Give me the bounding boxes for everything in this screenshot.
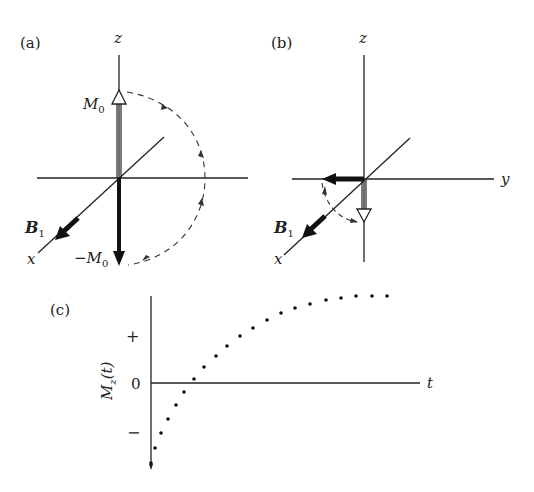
data-point bbox=[339, 296, 343, 300]
panel-c: (c) t + 0 − Mz(t) bbox=[50, 294, 434, 470]
data-point bbox=[192, 377, 196, 381]
data-point bbox=[202, 365, 206, 369]
data-point bbox=[182, 390, 186, 394]
m-filled-arrow bbox=[322, 173, 364, 185]
data-point bbox=[354, 294, 358, 298]
b1-arrow bbox=[302, 216, 325, 238]
data-points bbox=[149, 294, 389, 465]
data-point bbox=[265, 318, 269, 322]
data-point bbox=[174, 403, 178, 407]
data-point bbox=[370, 294, 374, 298]
y-axis-label: Mz(t) bbox=[98, 361, 118, 401]
arc-arrowhead-icon bbox=[198, 150, 204, 158]
data-point bbox=[159, 431, 163, 435]
tick-minus: − bbox=[127, 423, 140, 442]
data-point bbox=[385, 294, 389, 298]
panel-a-z-label: z bbox=[113, 29, 122, 47]
data-point bbox=[251, 326, 255, 330]
b1-label: B1 bbox=[273, 218, 294, 239]
panel-c-label: (c) bbox=[50, 301, 70, 319]
data-point bbox=[279, 311, 283, 315]
rotation-arc bbox=[322, 183, 357, 222]
data-point bbox=[308, 302, 312, 306]
data-point bbox=[149, 461, 153, 465]
panel-a: (a) z M0 −M0 B1 x bbox=[20, 29, 248, 269]
data-point bbox=[293, 306, 297, 310]
data-point bbox=[153, 446, 157, 450]
data-point bbox=[324, 298, 328, 302]
panel-b-label: (b) bbox=[271, 34, 292, 52]
panel-b-x-label: x bbox=[274, 250, 283, 268]
data-point bbox=[225, 344, 229, 348]
figure-canvas: (a) z M0 −M0 B1 x bbox=[0, 0, 534, 492]
tick-plus: + bbox=[126, 327, 139, 346]
neg-m0-label: −M0 bbox=[74, 249, 108, 269]
y-axis-arrow-icon bbox=[149, 464, 153, 470]
panel-b-y-label: y bbox=[500, 170, 510, 188]
data-point bbox=[166, 417, 170, 421]
b1-label: B1 bbox=[24, 218, 45, 239]
arc-arrowhead-icon bbox=[161, 104, 168, 110]
neg-m0-filled-arrow bbox=[113, 178, 125, 266]
panel-b: (b) z y B1 x bbox=[271, 29, 510, 268]
t-axis-label: t bbox=[427, 374, 434, 392]
panel-a-x-label: x bbox=[27, 250, 36, 268]
m0-label: M0 bbox=[82, 95, 105, 115]
data-point bbox=[214, 354, 218, 358]
data-point bbox=[238, 334, 242, 338]
b1-arrow bbox=[55, 218, 78, 240]
panel-b-z-label: z bbox=[358, 29, 367, 47]
panel-a-label: (a) bbox=[20, 34, 41, 52]
tick-zero: 0 bbox=[131, 375, 141, 393]
